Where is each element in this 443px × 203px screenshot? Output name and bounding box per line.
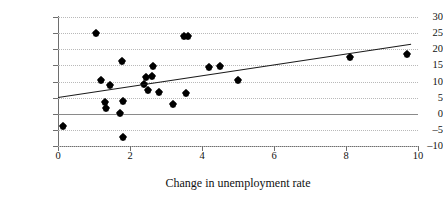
data-point [234, 76, 242, 84]
data-point [205, 63, 213, 71]
x-tick-label: 4 [187, 150, 217, 161]
data-point [155, 88, 163, 96]
data-point [149, 62, 157, 70]
data-point [116, 109, 124, 117]
data-point [118, 57, 126, 65]
y-axis-title: %Δ unit labour costs [8, 0, 24, 17]
gridline-y [58, 65, 418, 66]
gridline-y [58, 146, 418, 147]
x-tick-label: 8 [331, 150, 361, 161]
y-axis-title-container: %Δ unit labour costs [6, 17, 22, 146]
data-point [169, 100, 177, 108]
x-tick-label: 2 [115, 150, 145, 161]
gridline-y [58, 130, 418, 131]
x-tick-label: 6 [259, 150, 289, 161]
gridline-y [58, 98, 418, 99]
data-point [182, 89, 190, 97]
data-point [216, 61, 224, 69]
data-point [59, 121, 67, 129]
trend-line [58, 44, 411, 98]
x-axis-title: Change in unemployment rate [58, 176, 418, 190]
x-tick-label: 0 [43, 150, 73, 161]
data-point [97, 76, 105, 84]
x-tick-label: 10 [403, 150, 433, 161]
data-point [92, 29, 100, 37]
gridline-y [58, 17, 418, 18]
data-point [403, 50, 411, 58]
scatter-chart-figure: %Δ unit labour costs –10–5051015202530 0… [0, 0, 443, 203]
data-point [119, 133, 127, 141]
gridline-y [58, 33, 418, 34]
plot-area [58, 17, 418, 146]
zero-line [58, 114, 418, 115]
